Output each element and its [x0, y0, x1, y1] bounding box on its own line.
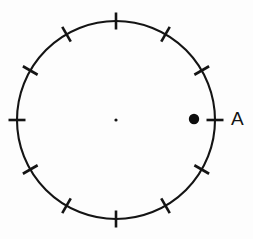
- circle-diagram: A: [0, 0, 253, 239]
- point-a-label: A: [231, 108, 244, 129]
- center-dot: [114, 118, 117, 121]
- figure-container: A: [0, 0, 253, 239]
- point-a-marker: [189, 114, 199, 124]
- marked-points-group: A: [189, 108, 244, 129]
